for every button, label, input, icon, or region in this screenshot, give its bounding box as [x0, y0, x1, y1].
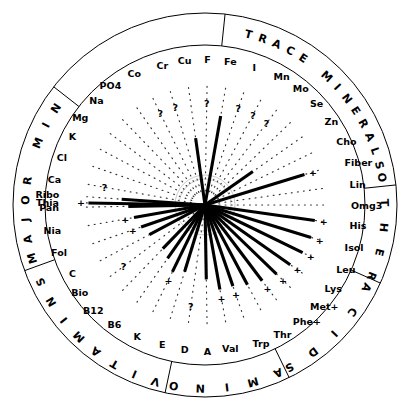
marker-plus-lys: +: [294, 264, 302, 275]
spoke-label-se: Se: [310, 98, 323, 109]
ring-label-vitamins-char-1: I: [130, 367, 139, 381]
ring-label-trace-minerals-char-8: N: [339, 91, 355, 106]
spoke-label-f: F: [204, 54, 211, 65]
ring-label-major-min-char-4: R: [21, 175, 35, 186]
ring-label-trace-minerals-char-11: A: [362, 131, 378, 144]
spoke-label-bio: Bio: [71, 287, 88, 298]
spoke-label-co: Co: [127, 68, 141, 79]
spoke-label-cl: Cl: [57, 152, 67, 163]
value-spoke-zn: [205, 171, 253, 205]
ring-label-other-char-0: O: [375, 172, 389, 183]
spoke-label-k: K: [69, 131, 77, 142]
marker-plus-pheplus: +: [264, 283, 272, 294]
ring-label-other-char-2: H: [377, 222, 391, 233]
spoke-label-metplus: Met+: [310, 301, 338, 312]
ring-label-amino-char-0: A: [271, 365, 285, 381]
ring-label-other-char-3: E: [372, 247, 386, 257]
marker-question-mo: ?: [264, 118, 270, 129]
ring-label-vitamins-char-6: N: [43, 294, 59, 309]
ring-label-trace-minerals-char-7: I: [331, 81, 343, 93]
spoke-label-k: K: [134, 331, 142, 342]
ring-label-vitamins-char-5: I: [58, 314, 71, 325]
spoke-label-c: C: [69, 268, 76, 279]
spoke-label-zn: Zn: [325, 116, 339, 127]
marker-question-d: ?: [188, 301, 194, 312]
spoke-label-na: Na: [89, 95, 103, 106]
ring-label-major-min-char-8: N: [48, 101, 64, 116]
ring-label-trace-minerals-char-9: E: [348, 104, 363, 117]
spoke-label-lys: Lys: [325, 283, 343, 294]
spoke-label-fol: Fol: [51, 247, 67, 258]
value-spoke-a: [205, 205, 206, 279]
value-spoke-fe: [205, 116, 221, 205]
ring-label-trace-minerals-char-2: A: [270, 37, 283, 53]
ring-label-trace-minerals-char-4: E: [296, 51, 309, 66]
spoke-label-b6: B6: [107, 319, 121, 330]
ring-label-trace-minerals-char-12: L: [368, 146, 383, 157]
spoke-label-fiber: Fiber: [345, 157, 373, 168]
sector-divider-tick-1: [364, 185, 396, 188]
spoke-label-po4: PO4: [100, 80, 122, 91]
ring-label-major-min-char-2: J: [19, 217, 32, 223]
spoke-label-ca: Ca: [48, 174, 61, 185]
marker-question-cr: ?: [172, 102, 178, 113]
ring-label-amino-char-4: O: [168, 378, 179, 392]
marker-plus-leu: +: [307, 251, 315, 262]
ring-label-amino-char-1: M: [246, 374, 260, 389]
ring-label-major-min-char-3: O: [19, 195, 32, 205]
marker-plus-fol: +: [129, 225, 137, 236]
ring-label-acids-char-0: A: [358, 281, 374, 295]
spoke-label-omg3: Omg3: [351, 200, 382, 211]
marker-plus-metplus: +: [279, 275, 287, 286]
marker-plus-k: +: [164, 275, 172, 286]
spoke-label-his: His: [350, 220, 367, 231]
spoke-label-cu: Cu: [178, 55, 192, 66]
spoke-label-e: E: [159, 339, 166, 350]
spoke-label-pheplus: Phe+: [293, 316, 321, 327]
ring-label-amino-char-3: N: [196, 382, 206, 395]
ring-label-major-min-char-6: M: [30, 136, 46, 151]
marker-question-f: ?: [204, 98, 210, 109]
ring-label-major-min-char-0: M: [25, 251, 41, 265]
ring-label-vitamins-char-3: A: [88, 343, 103, 359]
spoke-label-cho: Cho: [336, 136, 357, 147]
marker-plus-his: +: [320, 216, 328, 227]
spoke-label-val: Val: [222, 343, 239, 354]
spoke-label-i: I: [253, 62, 257, 73]
spoke-label-fe: Fe: [224, 56, 237, 67]
spoke-label-nia: Nia: [44, 225, 62, 236]
ring-label-vitamins-char-7: S: [33, 275, 48, 288]
marker-plus-nia: +: [121, 214, 129, 225]
marker-plus-thia: +: [77, 197, 85, 208]
spoke-label-cr: Cr: [156, 60, 168, 71]
spoke-label-b12: B12: [83, 305, 103, 316]
ring-label-trace-minerals-char-10: R: [355, 117, 371, 131]
ring-label-major-min-char-7: I: [39, 120, 52, 130]
spoke-label-thia: Thia: [36, 197, 59, 208]
ring-label-trace-minerals-char-13: S: [372, 160, 387, 171]
value-spoke-cu: [196, 138, 205, 205]
spoke-label-a: A: [204, 346, 212, 357]
marker-question-co: ?: [158, 108, 164, 119]
ring-label-trace-minerals-char-6: M: [318, 68, 335, 85]
ring-label-other-char-1: T: [378, 199, 391, 207]
marker-plus-val: +: [217, 293, 225, 304]
ring-label-vitamins-char-4: M: [71, 328, 88, 345]
ring-label-acids-char-2: I: [328, 328, 340, 340]
value-spoke-pheplus: [205, 205, 262, 281]
ring-label-trace-minerals-char-0: T: [243, 27, 254, 42]
chart-canvas: ???????+++++++++?+?+++ CaClKMgNaPO4CoCrC…: [0, 0, 410, 408]
ring-label-acids-char-1: C: [344, 305, 359, 319]
sector-divider-tick-0: [222, 14, 225, 46]
spoke-label-d: D: [181, 344, 189, 355]
spoke-label-lin: Lin: [350, 179, 366, 190]
ring-label-amino-char-2: I: [224, 380, 230, 393]
nutrient-star-chart: ???????+++++++++?+?+++ CaClKMgNaPO4CoCrC…: [0, 0, 410, 408]
spoke-label-leu: Leu: [336, 264, 355, 275]
marker-question-i: ?: [235, 103, 241, 114]
spoke-label-mn: Mn: [274, 71, 290, 82]
ring-label-trace-minerals-char-1: R: [257, 31, 270, 46]
marker-question-mn: ?: [250, 110, 256, 121]
ring-label-trace-minerals-char-3: C: [283, 43, 296, 58]
marker-plus-fiber: +: [309, 167, 317, 178]
